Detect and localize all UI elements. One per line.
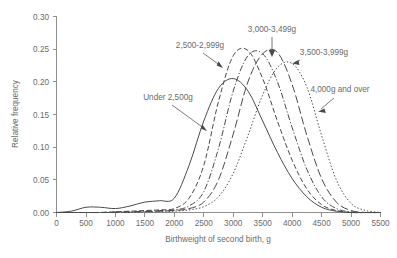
chart-canvas: 0.30 0.25 0.20 0.15 0.10 0.05 0.00 0 500…	[0, 0, 397, 258]
annotation-arrow-head	[269, 50, 276, 57]
annotation-under-2500g: Under 2,500g	[143, 93, 207, 131]
annotation-label: 3,500-3,999g	[300, 48, 349, 57]
y-tick-label: 0.10	[33, 143, 49, 152]
annotations-group: Under 2,500g 2,500-2,999g 3,000-3,499g 3…	[143, 25, 370, 131]
x-tick-label: 4500	[312, 219, 331, 228]
series-curve-3500-3999g	[57, 49, 381, 212]
y-tick-label: 0.00	[33, 209, 49, 218]
x-tick-label: 500	[79, 219, 93, 228]
y-ticks-group: 0.30 0.25 0.20 0.15 0.10 0.05 0.00	[33, 13, 56, 218]
x-tick-label: 2000	[165, 219, 184, 228]
annotation-4000g-and-over: 4,000g and over	[310, 85, 369, 113]
y-tick-label: 0.05	[33, 176, 49, 185]
annotation-leader-line	[172, 105, 205, 129]
series-curve-2500-2999g	[57, 48, 381, 212]
y-tick-label: 0.15	[33, 111, 49, 120]
x-ticks-group: 0 500 1000 1500 2000 2500 3000 3500 4000…	[54, 213, 390, 229]
series-curve-3000-3499g	[57, 51, 381, 213]
annotation-arrow-head	[217, 61, 223, 68]
y-tick-label: 0.20	[33, 78, 49, 87]
x-tick-label: 5000	[342, 219, 361, 228]
x-axis-title: Birthweight of second birth, g	[165, 235, 271, 244]
annotation-arrow-head	[318, 108, 326, 113]
x-tick-label: 1500	[136, 219, 155, 228]
annotation-label: 2,500-2,999g	[176, 41, 225, 50]
annotation-arrow-head	[201, 124, 208, 131]
x-tick-label: 0	[54, 219, 59, 228]
birthweight-density-chart: 0.30 0.25 0.20 0.15 0.10 0.05 0.00 0 500…	[0, 0, 397, 258]
annotation-3500-3999g: 3,500-3,999g	[292, 48, 349, 65]
y-tick-label: 0.30	[33, 13, 49, 22]
x-tick-label: 2500	[195, 219, 214, 228]
x-tick-label: 3500	[254, 219, 273, 228]
y-tick-label: 0.25	[33, 45, 49, 54]
x-tick-label: 5500	[371, 219, 390, 228]
x-tick-label: 3000	[224, 219, 243, 228]
series-curve-under-2500g	[57, 79, 381, 213]
series-curves-group	[57, 48, 381, 212]
annotation-label: 4,000g and over	[310, 85, 369, 94]
y-axis-title: Relative frequency	[11, 79, 20, 148]
x-tick-label: 4000	[283, 219, 302, 228]
annotation-2500-2999g: 2,500-2,999g	[176, 41, 225, 68]
x-tick-label: 1000	[106, 219, 125, 228]
annotation-label: Under 2,500g	[143, 93, 193, 102]
annotation-3000-3499g: 3,000-3,499g	[248, 25, 297, 57]
annotation-label: 3,000-3,499g	[248, 25, 297, 34]
annotation-leader-line	[321, 98, 334, 109]
